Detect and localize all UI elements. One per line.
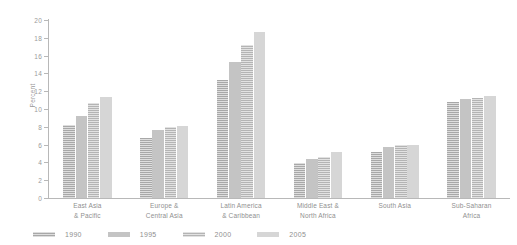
- bar[interactable]: [371, 152, 383, 198]
- legend-swatch-icon: [183, 232, 205, 237]
- bar[interactable]: [241, 45, 253, 198]
- bar[interactable]: [318, 157, 330, 198]
- x-axis-category-label: Latin America& Caribbean: [203, 201, 280, 220]
- bar[interactable]: [88, 103, 100, 198]
- bar[interactable]: [407, 145, 419, 198]
- bar[interactable]: [165, 127, 177, 198]
- y-axis-tick-label: 4: [38, 159, 42, 166]
- legend-label: 2000: [215, 231, 232, 238]
- bar-group: [126, 20, 203, 198]
- legend-swatch-icon: [108, 232, 130, 237]
- bar[interactable]: [447, 102, 459, 198]
- y-axis-tick-label: 16: [34, 52, 42, 59]
- x-axis-category-label-line: Sub-Saharan: [433, 201, 510, 211]
- legend-item[interactable]: 1990: [33, 231, 82, 238]
- legend-item[interactable]: 1995: [108, 231, 157, 238]
- x-axis-category-label-line: & Caribbean: [203, 211, 280, 221]
- legend-label: 1995: [140, 231, 157, 238]
- bar[interactable]: [383, 147, 395, 198]
- x-axis-category-label-line: South Asia: [356, 201, 433, 211]
- bar[interactable]: [63, 125, 75, 198]
- bar[interactable]: [460, 99, 472, 198]
- legend-label: 1990: [65, 231, 82, 238]
- bar[interactable]: [217, 80, 229, 198]
- y-axis-tick-label: 8: [38, 123, 42, 130]
- x-axis-category-label-line: North Africa: [280, 211, 357, 221]
- y-axis-tick-label: 20: [34, 17, 42, 24]
- x-axis-category-label: Europe &Central Asia: [126, 201, 203, 220]
- bar[interactable]: [294, 163, 306, 198]
- x-axis-category-label-line: Middle East &: [280, 201, 357, 211]
- bar-group: [49, 20, 126, 198]
- x-axis-category-label: East Asia& Pacific: [49, 201, 126, 220]
- x-axis-category-label-line: Latin America: [203, 201, 280, 211]
- chart-legend: 1990199520002005: [33, 228, 332, 240]
- bar-group: [433, 20, 510, 198]
- x-axis-category-label: Sub-SaharanAfrica: [433, 201, 510, 220]
- bar-chart: Percent 02468101214161820 East Asia& Pac…: [0, 0, 517, 245]
- legend-swatch-icon: [33, 232, 55, 237]
- y-axis-tick-label: 10: [34, 106, 42, 113]
- x-axis-category-label-line: Europe &: [126, 201, 203, 211]
- bar-group: [203, 20, 280, 198]
- bar[interactable]: [229, 62, 241, 198]
- y-axis-tick-label: 12: [34, 88, 42, 95]
- bar[interactable]: [331, 152, 343, 198]
- bar[interactable]: [306, 159, 318, 198]
- y-axis-tick-label: 18: [34, 34, 42, 41]
- legend-label: 2005: [289, 231, 306, 238]
- y-axis-tick-labels: 02468101214161820: [22, 20, 42, 198]
- bar-group: [280, 20, 357, 198]
- bar[interactable]: [100, 97, 112, 198]
- bar-group: [356, 20, 433, 198]
- x-axis-category-label: Middle East &North Africa: [280, 201, 357, 220]
- bar[interactable]: [484, 96, 496, 198]
- bar[interactable]: [177, 126, 189, 198]
- y-axis-tick-label: 14: [34, 70, 42, 77]
- x-axis-category-label-line: Central Asia: [126, 211, 203, 221]
- bar[interactable]: [395, 145, 407, 198]
- x-axis-line: [48, 198, 510, 199]
- x-axis-category-labels: East Asia& PacificEurope &Central AsiaLa…: [49, 201, 510, 223]
- bar[interactable]: [152, 130, 164, 198]
- y-axis-tick-label: 2: [38, 177, 42, 184]
- bar[interactable]: [140, 138, 152, 198]
- legend-item[interactable]: 2005: [257, 231, 306, 238]
- bar[interactable]: [472, 98, 484, 198]
- plot-area: [49, 20, 510, 198]
- legend-item[interactable]: 2000: [183, 231, 232, 238]
- y-axis-tick-label: 6: [38, 141, 42, 148]
- x-axis-category-label-line: & Pacific: [49, 211, 126, 221]
- x-axis-category-label-line: East Asia: [49, 201, 126, 211]
- bar[interactable]: [76, 116, 88, 198]
- bar[interactable]: [254, 32, 266, 198]
- x-axis-category-label: South Asia: [356, 201, 433, 211]
- legend-swatch-icon: [257, 232, 279, 237]
- y-axis-tick-label: 0: [38, 195, 42, 202]
- x-axis-category-label-line: Africa: [433, 211, 510, 221]
